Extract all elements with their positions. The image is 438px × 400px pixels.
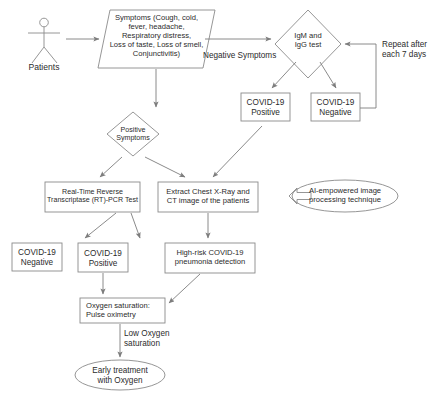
pcr-positive-box	[78, 243, 128, 272]
serology-negative-box	[311, 93, 360, 121]
early-treatment-ellipse	[75, 360, 165, 390]
repeat-loop-connector	[345, 44, 376, 108]
patients-figure-icon	[28, 18, 60, 63]
flow-connectors	[66, 39, 336, 357]
flowchart-canvas: Patients Symptoms (Cough, cold, fever, h…	[0, 0, 438, 400]
igm-igg-diamond	[275, 10, 341, 78]
extract-imaging-box	[158, 182, 258, 212]
rtpcr-box	[45, 182, 140, 212]
symptoms-parallelogram	[98, 10, 215, 68]
low-oxygen-label: Low Oxygen saturation	[124, 329, 170, 349]
positive-symptoms-diamond	[107, 112, 159, 156]
oxygen-saturation-box	[80, 298, 165, 323]
ai-technique-ellipse	[292, 180, 398, 212]
serology-positive-box	[241, 93, 290, 121]
pcr-negative-box	[12, 243, 62, 271]
repeat-interval-label: Repeat after each 7 days	[382, 40, 427, 60]
negative-symptoms-label: Negative Symptoms	[203, 51, 276, 61]
pneumonia-detection-box	[165, 243, 255, 273]
